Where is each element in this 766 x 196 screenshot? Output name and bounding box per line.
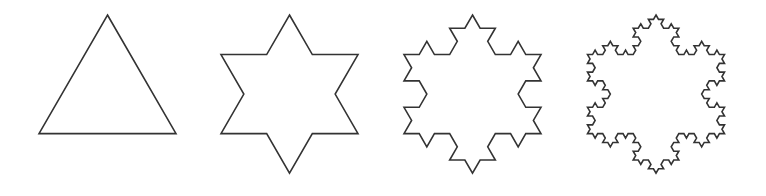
koch-iteration-0	[39, 15, 176, 134]
koch-iteration-1	[221, 15, 358, 173]
koch-iteration-3	[588, 15, 725, 173]
koch-iteration-2	[404, 15, 541, 173]
koch-snowflake-figure	[0, 0, 766, 196]
koch-snowflake-canvas	[0, 0, 766, 196]
